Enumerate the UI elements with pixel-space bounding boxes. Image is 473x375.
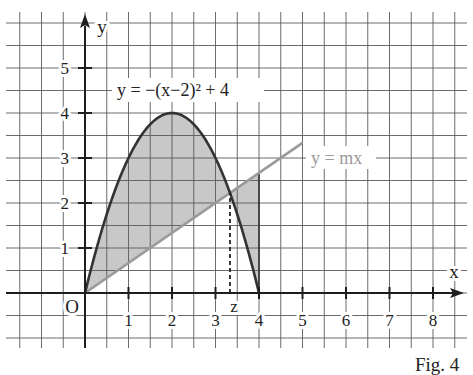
y-tick-label: 3 — [61, 149, 70, 168]
y-tick-label: 1 — [61, 239, 70, 258]
x-tick-label: 4 — [255, 311, 264, 330]
z-marker-label: z — [230, 297, 238, 316]
x-tick-label: 2 — [168, 311, 177, 330]
figure-caption: Fig. 4 — [415, 354, 460, 375]
origin-label: O — [65, 296, 79, 317]
x-tick-label: 7 — [385, 311, 394, 330]
x-tick-label: 5 — [298, 311, 307, 330]
y-axis-label: y — [97, 16, 107, 37]
y-tick-label: 2 — [61, 194, 70, 213]
function-plot: 1234567812345 y = −(x−2)² + 4 y = mx y x… — [0, 0, 473, 375]
x-tick-label: 8 — [429, 311, 438, 330]
x-tick-label: 6 — [342, 311, 351, 330]
parabola-equation-label: y = −(x−2)² + 4 — [117, 80, 229, 101]
y-tick-label: 4 — [61, 104, 70, 123]
x-axis-label: x — [449, 261, 459, 282]
x-tick-label: 1 — [124, 311, 133, 330]
x-tick-label: 3 — [211, 311, 220, 330]
line-equation-label: y = mx — [311, 148, 362, 168]
y-tick-label: 5 — [61, 59, 70, 78]
